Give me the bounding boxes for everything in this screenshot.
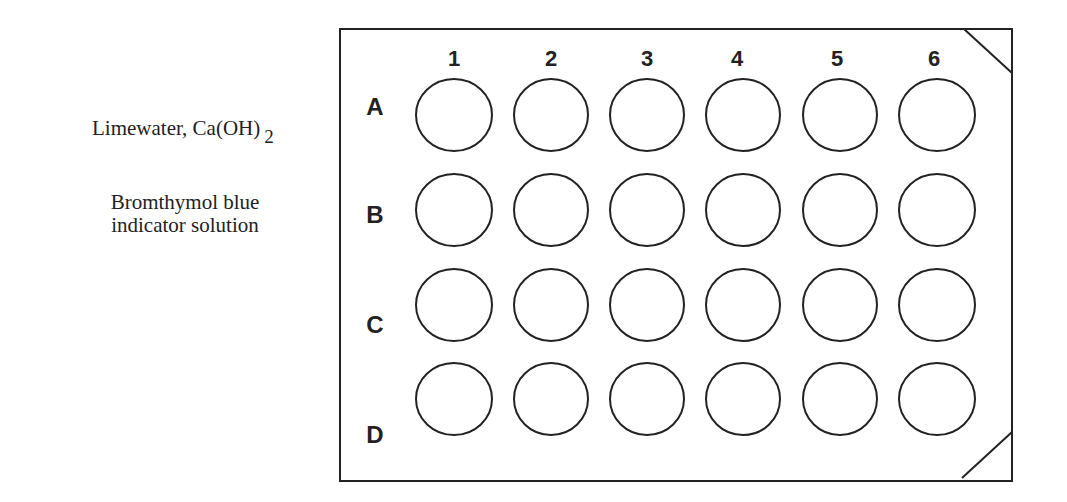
well-d3[interactable] [610, 363, 684, 435]
well-b2[interactable] [514, 174, 588, 246]
well-c6[interactable] [899, 269, 975, 341]
well-b6[interactable] [899, 174, 975, 246]
well-a3[interactable] [610, 79, 684, 151]
well-a1[interactable] [416, 79, 492, 151]
well-b1[interactable] [416, 174, 492, 246]
well-c3[interactable] [610, 269, 684, 341]
well-c5[interactable] [803, 269, 877, 341]
well-a6[interactable] [899, 79, 975, 151]
column-label-1: 1 [448, 46, 460, 71]
well-c1[interactable] [416, 269, 492, 341]
plate-border [340, 29, 1012, 481]
column-label-5: 5 [831, 46, 843, 71]
row-label-b: B [366, 201, 383, 228]
corner-notch-bottom-right [962, 432, 1012, 478]
row-label-a: A [366, 93, 383, 120]
well-d6[interactable] [899, 363, 975, 435]
well-a4[interactable] [706, 79, 780, 151]
well-b5[interactable] [803, 174, 877, 246]
well-c4[interactable] [706, 269, 780, 341]
well-d2[interactable] [514, 363, 588, 435]
well-d5[interactable] [803, 363, 877, 435]
column-label-3: 3 [641, 46, 653, 71]
wells [416, 79, 975, 435]
column-label-6: 6 [928, 46, 940, 71]
corner-notch-top-right [964, 29, 1012, 73]
row-label-c: C [366, 311, 383, 338]
column-label-4: 4 [731, 46, 744, 71]
well-c2[interactable] [514, 269, 588, 341]
well-b4[interactable] [706, 174, 780, 246]
well-d4[interactable] [706, 363, 780, 435]
row-label-d: D [366, 421, 383, 448]
column-label-2: 2 [545, 46, 557, 71]
well-d1[interactable] [416, 363, 492, 435]
well-a2[interactable] [514, 79, 588, 151]
well-b3[interactable] [610, 174, 684, 246]
well-a5[interactable] [803, 79, 877, 151]
well-plate: 1 2 3 4 5 6 A B C D [0, 0, 1067, 502]
